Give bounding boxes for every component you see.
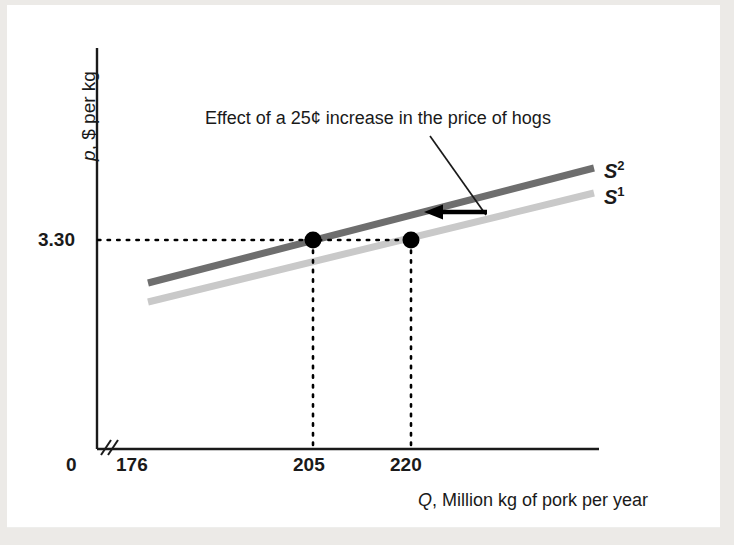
x-axis-tick-label-176: 176: [116, 454, 148, 476]
curve-label-s2-superscript: 2: [617, 158, 624, 173]
data-point-marker-205: [305, 232, 322, 249]
y-axis-title-variable: p: [78, 150, 99, 161]
x-axis-title: Q, Million kg of pork per year: [418, 490, 648, 511]
curve-label-s1-base: S: [604, 186, 617, 208]
supply-curve-s2: [148, 168, 594, 283]
x-axis-tick-label-205: 205: [293, 454, 325, 476]
x-axis-title-variable: Q: [418, 490, 432, 510]
y-axis-title-units: , $ per kg: [78, 71, 99, 150]
data-point-marker-220: [403, 232, 420, 249]
supply-curve-plot: [0, 0, 734, 545]
curve-label-s2-base: S: [604, 160, 617, 182]
curve-label-s1: S1: [604, 184, 625, 209]
y-axis-title: p, $ per kg: [78, 21, 100, 211]
curve-label-s1-superscript: 1: [617, 184, 624, 199]
x-axis-tick-label-220: 220: [390, 454, 422, 476]
figure-container: p, $ per kg Q, Million kg of pork per ye…: [0, 0, 734, 545]
annotation-label: Effect of a 25¢ increase in the price of…: [205, 108, 551, 129]
x-axis-title-units: , Million kg of pork per year: [432, 490, 648, 510]
curve-label-s2: S2: [604, 158, 625, 183]
supply-curve-s1: [148, 193, 594, 302]
y-axis-tick-label-330: 3.30: [38, 229, 75, 251]
origin-label: 0: [66, 454, 77, 476]
